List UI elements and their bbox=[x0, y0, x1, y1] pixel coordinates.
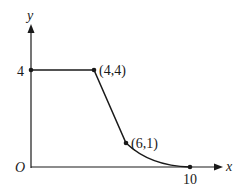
point-label-4-4: (4,4) bbox=[99, 63, 126, 79]
point-4-4 bbox=[92, 68, 97, 73]
y-tick-label: 4 bbox=[17, 64, 24, 79]
graph-diagram: y x O 4 10 (4,4) (6,1) bbox=[0, 0, 243, 192]
x-axis-arrow-icon bbox=[214, 164, 223, 171]
point-10-0 bbox=[188, 165, 193, 170]
y-axis-arrow-icon bbox=[28, 24, 35, 33]
x-tick-label: 10 bbox=[183, 172, 197, 187]
x-axis-label: x bbox=[225, 159, 233, 174]
point-6-1 bbox=[124, 141, 129, 146]
origin-label: O bbox=[15, 160, 25, 175]
graph-curve bbox=[31, 70, 190, 167]
point-0-4 bbox=[29, 68, 34, 73]
point-label-6-1: (6,1) bbox=[131, 136, 158, 152]
y-axis-label: y bbox=[25, 8, 34, 23]
